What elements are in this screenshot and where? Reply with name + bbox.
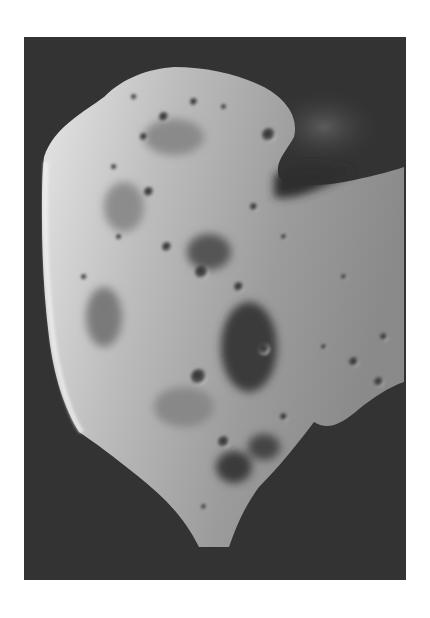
asteroid-image <box>24 37 406 580</box>
asteroid-photo <box>24 37 406 580</box>
